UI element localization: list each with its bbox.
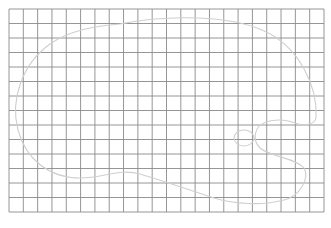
grid-figure xyxy=(0,0,331,228)
grid-drawing xyxy=(0,0,331,228)
palette-thumb-hole xyxy=(234,130,254,146)
